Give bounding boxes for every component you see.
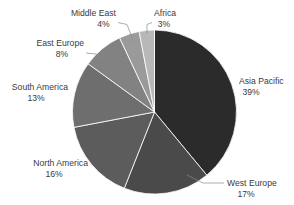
pie-chart: Middle East 4% Africa 3% East Europe 8% … (0, 0, 294, 205)
label-asia-pacific-pct: 39% (242, 87, 260, 97)
label-north-america-pct: 16% (45, 169, 63, 179)
label-north-america-name: North America (33, 158, 88, 168)
label-south-america-name: South America (12, 82, 68, 92)
label-west-europe-name: West Europe (227, 178, 277, 188)
label-south-america-pct: 13% (27, 93, 45, 103)
chart-page: Middle East 4% Africa 3% East Europe 8% … (0, 0, 294, 205)
label-asia-pacific-name: Asia Pacific (239, 76, 284, 86)
label-africa-pct: 3% (158, 19, 171, 29)
label-middle-east-pct: 4% (97, 19, 110, 29)
label-east-europe-pct: 8% (56, 49, 69, 59)
label-west-europe-pct: 17% (237, 189, 255, 199)
label-middle-east-name: Middle East (71, 8, 117, 18)
label-africa-name: Africa (154, 8, 176, 18)
label-east-europe-name: East Europe (36, 38, 84, 48)
